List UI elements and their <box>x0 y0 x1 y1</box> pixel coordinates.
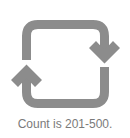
lower-cycle-stroke <box>27 67 105 104</box>
upper-cycle-stroke <box>27 25 105 61</box>
refresh-cycle-icon <box>0 0 130 115</box>
count-caption: Count is 201-500. <box>0 117 130 131</box>
